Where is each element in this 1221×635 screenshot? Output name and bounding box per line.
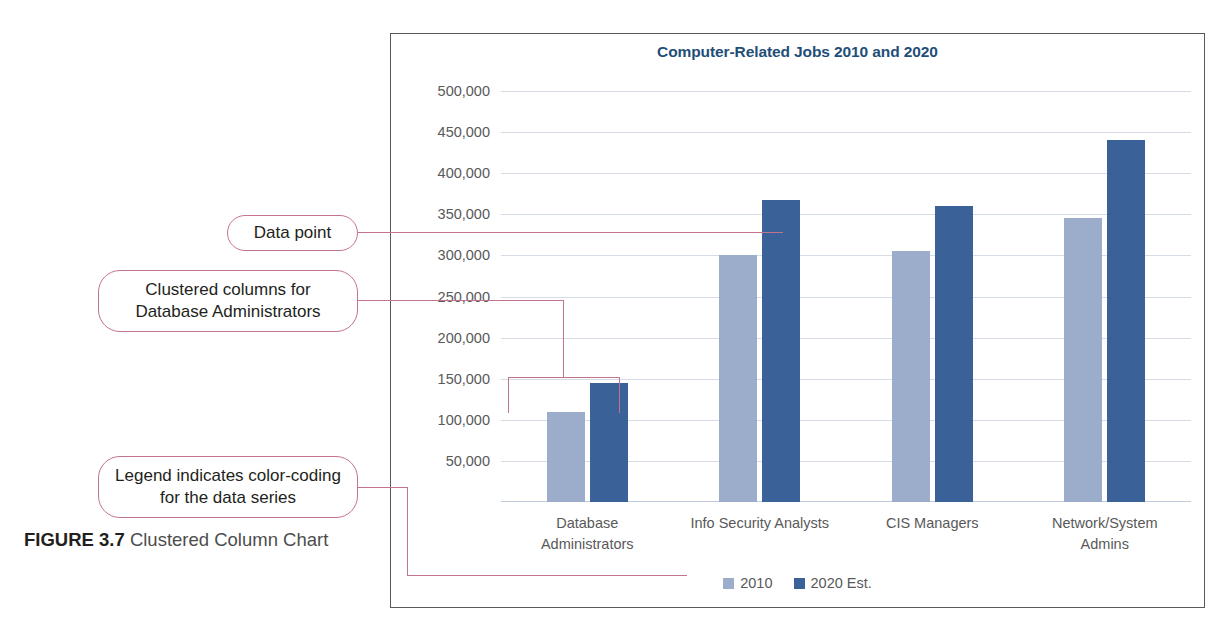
- legend-swatch-icon-2020: [794, 578, 805, 589]
- y-axis-tick-label: 450,000: [438, 124, 490, 140]
- y-axis-tick-label: 350,000: [438, 206, 490, 222]
- legend-item-2020: 2020 Est.: [794, 575, 872, 591]
- gridline: [501, 173, 1191, 174]
- y-axis-tick-label: 250,000: [438, 289, 490, 305]
- leader-line-clustered-horizontal: [358, 300, 564, 301]
- leader-line-data-point: [358, 232, 783, 233]
- category-label: DatabaseAdministrators: [501, 513, 674, 554]
- figure-caption: FIGURE 3.7 Clustered Column Chart: [24, 527, 354, 553]
- cluster-bracket-annotation: [508, 377, 620, 413]
- y-axis-tick-label: 300,000: [438, 247, 490, 263]
- y-axis-tick-label: 150,000: [438, 371, 490, 387]
- legend-swatch-icon-2010: [723, 578, 734, 589]
- plot-area: 500,000450,000400,000350,000300,000250,0…: [501, 91, 1191, 502]
- legend-label-2020: 2020 Est.: [811, 575, 872, 591]
- callout-clustered-columns: Clustered columns for Database Administr…: [98, 270, 358, 332]
- leader-line-legend-vertical: [407, 487, 408, 576]
- bar-2010: [547, 412, 585, 502]
- figure-number: FIGURE 3.7: [24, 529, 125, 550]
- bar-2020: [935, 206, 973, 502]
- callout-clustered-columns-text: Clustered columns for Database Administr…: [113, 279, 343, 324]
- bar-2010: [892, 251, 930, 502]
- callout-legend-note: Legend indicates color-coding for the da…: [98, 456, 358, 518]
- leader-line-legend-horizontal: [358, 487, 408, 488]
- bar-2020: [762, 200, 800, 502]
- leader-line-clustered-vertical: [563, 300, 564, 378]
- bar-2010: [719, 255, 757, 502]
- figure-caption-text: Clustered Column Chart: [130, 529, 328, 550]
- category-label: Network/SystemAdmins: [1019, 513, 1192, 554]
- callout-data-point-text: Data point: [254, 222, 332, 244]
- gridline: [501, 132, 1191, 133]
- gridline: [501, 214, 1191, 215]
- legend-item-2010: 2010: [723, 575, 772, 591]
- category-label: CIS Managers: [846, 513, 1019, 534]
- y-axis-tick-label: 200,000: [438, 330, 490, 346]
- chart-container: Computer-Related Jobs 2010 and 2020 500,…: [390, 33, 1205, 608]
- leader-line-legend-to-swatch: [407, 575, 687, 576]
- category-label: Info Security Analysts: [674, 513, 847, 534]
- callout-legend-note-text: Legend indicates color-coding for the da…: [113, 465, 343, 510]
- y-axis-tick-label: 400,000: [438, 165, 490, 181]
- chart-legend: 2010 2020 Est.: [391, 575, 1204, 591]
- y-axis-tick-label: 100,000: [438, 412, 490, 428]
- y-axis-tick-label: 50,000: [446, 453, 490, 469]
- legend-label-2010: 2010: [740, 575, 772, 591]
- bar-2010: [1064, 218, 1102, 502]
- y-axis-tick-label: 500,000: [438, 83, 490, 99]
- bar-2020: [1107, 140, 1145, 502]
- gridline: [501, 91, 1191, 92]
- chart-title: Computer-Related Jobs 2010 and 2020: [391, 43, 1204, 61]
- callout-data-point: Data point: [227, 215, 358, 251]
